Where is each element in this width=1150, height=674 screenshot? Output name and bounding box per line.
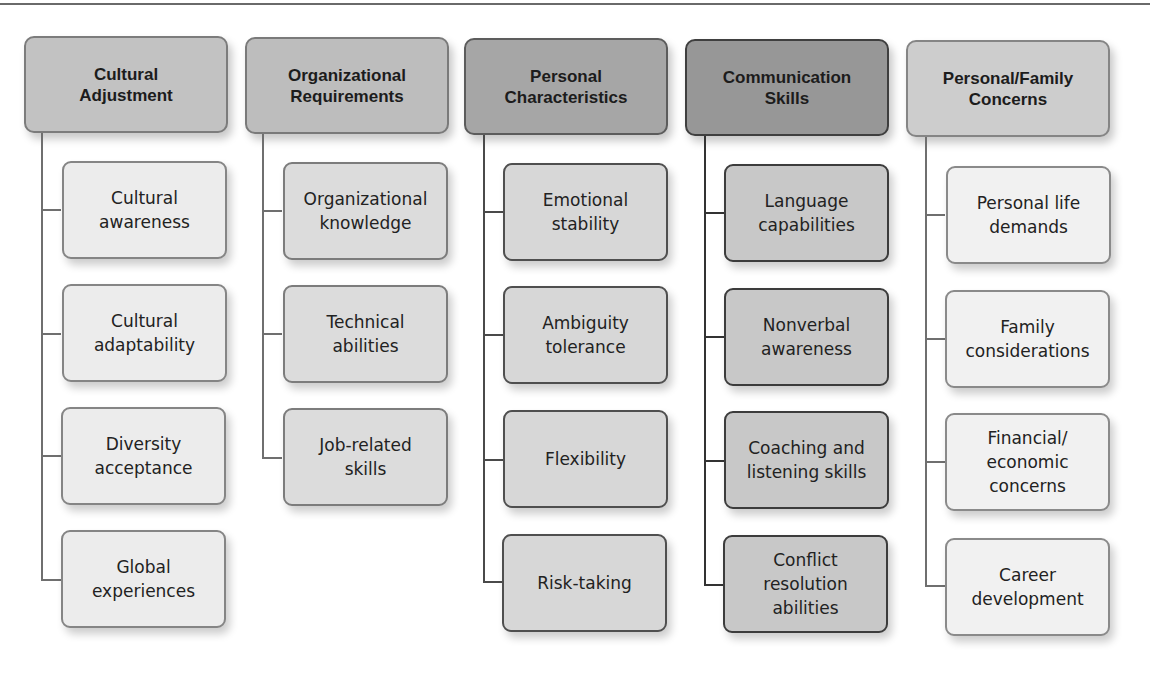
connector-horizontal: [262, 457, 282, 459]
connector-horizontal: [41, 209, 61, 211]
connector-horizontal: [925, 338, 945, 340]
column-personal-family-concerns: Personal/Family Concerns Personal life d…: [906, 0, 1136, 674]
connector-vertical: [262, 134, 264, 459]
header-cultural-adjustment: Cultural Adjustment: [24, 36, 228, 133]
item-language-capabilities: Language capabilities: [724, 164, 889, 262]
item-personal-life-demands: Personal life demands: [946, 166, 1111, 264]
header-personal-family-concerns: Personal/Family Concerns: [906, 40, 1110, 137]
connector-horizontal: [41, 333, 61, 335]
connector-horizontal: [41, 455, 61, 457]
connector-horizontal: [483, 581, 503, 583]
item-financial-economic-concerns: Financial/ economic concerns: [945, 413, 1110, 511]
column-communication-skills: Communication Skills Language capabiliti…: [685, 0, 915, 674]
item-flexibility: Flexibility: [503, 410, 668, 508]
header-organizational-requirements: Organizational Requirements: [245, 37, 449, 134]
item-organizational-knowledge: Organizational knowledge: [283, 162, 448, 260]
header-communication-skills: Communication Skills: [685, 39, 889, 136]
connector-vertical: [483, 135, 485, 583]
connector-horizontal: [925, 461, 945, 463]
item-family-considerations: Family considerations: [945, 290, 1110, 388]
item-emotional-stability: Emotional stability: [503, 163, 668, 261]
item-coaching-listening-skills: Coaching and listening skills: [724, 411, 889, 509]
item-cultural-adaptability: Cultural adaptability: [62, 284, 227, 382]
connector-horizontal: [262, 210, 282, 212]
column-organizational-requirements: Organizational Requirements Organization…: [245, 0, 475, 674]
connector-horizontal: [483, 459, 503, 461]
item-ambiguity-tolerance: Ambiguity tolerance: [503, 286, 668, 384]
item-cultural-awareness: Cultural awareness: [62, 161, 227, 259]
connector-vertical: [925, 137, 927, 587]
connector-horizontal: [704, 460, 724, 462]
connector-horizontal: [704, 336, 724, 338]
connector-horizontal: [483, 334, 503, 336]
item-nonverbal-awareness: Nonverbal awareness: [724, 288, 889, 386]
connector-horizontal: [925, 585, 945, 587]
column-personal-characteristics: Personal Characteristics Emotional stabi…: [464, 0, 694, 674]
column-cultural-adjustment: Cultural Adjustment Cultural awareness C…: [24, 0, 254, 674]
connector-vertical: [41, 133, 43, 581]
item-job-related-skills: Job-related skills: [283, 408, 448, 506]
item-diversity-acceptance: Diversity acceptance: [61, 407, 226, 505]
item-career-development: Career development: [945, 538, 1110, 636]
item-global-experiences: Global experiences: [61, 530, 226, 628]
item-risk-taking: Risk-taking: [502, 534, 667, 632]
connector-horizontal: [483, 211, 503, 213]
header-personal-characteristics: Personal Characteristics: [464, 38, 668, 135]
connector-horizontal: [704, 584, 724, 586]
connector-vertical: [704, 136, 706, 586]
connector-horizontal: [925, 214, 945, 216]
connector-horizontal: [41, 579, 61, 581]
connector-horizontal: [704, 212, 724, 214]
connector-horizontal: [262, 333, 282, 335]
item-technical-abilities: Technical abilities: [283, 285, 448, 383]
item-conflict-resolution-abilities: Conflict resolution abilities: [723, 535, 888, 633]
